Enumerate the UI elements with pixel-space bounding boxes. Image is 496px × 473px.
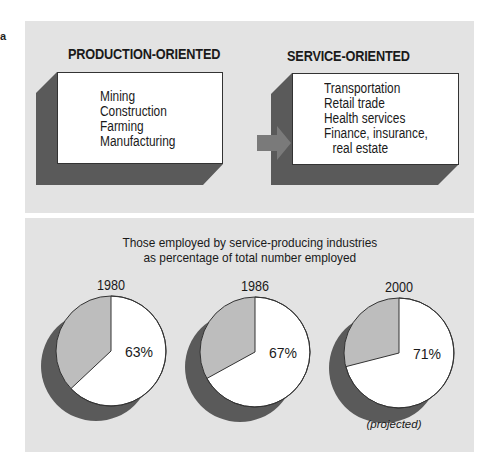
- list-item: Manufacturing: [100, 134, 175, 149]
- list-item: Farming: [100, 119, 175, 134]
- pie-charts: 198063%198667%200071%(projected): [25, 218, 474, 452]
- service-box: Transportation Retail trade Health servi…: [292, 73, 459, 165]
- list-item: Retail trade: [324, 96, 428, 111]
- production-list: Mining Construction Farming Manufacturin…: [100, 89, 175, 149]
- pie-chart-panel: Those employed by service-producing indu…: [25, 218, 474, 452]
- right-arrow-icon: [257, 126, 297, 160]
- pie-year-label: 1986: [241, 278, 269, 294]
- production-box: Mining Construction Farming Manufacturin…: [57, 72, 223, 164]
- service-list: Transportation Retail trade Health servi…: [324, 81, 428, 156]
- pie-percent-label: 67%: [269, 345, 297, 361]
- pie-year-label: 2000: [385, 279, 413, 295]
- pie-percent-label: 63%: [125, 344, 153, 360]
- pie-percent-label: 71%: [413, 346, 441, 362]
- list-item: Transportation: [324, 81, 428, 96]
- list-item: real estate: [324, 141, 428, 156]
- corner-mark: a: [0, 30, 6, 42]
- list-item: Construction: [100, 104, 175, 119]
- list-item: Finance, insurance,: [324, 126, 428, 141]
- sector-shift-panel: PRODUCTION-ORIENTED SERVICE-ORIENTED Min…: [25, 21, 474, 213]
- projected-note: (projected): [367, 418, 422, 430]
- list-item: Mining: [100, 89, 175, 104]
- pie-year-label: 1980: [97, 277, 125, 293]
- list-item: Health services: [324, 111, 428, 126]
